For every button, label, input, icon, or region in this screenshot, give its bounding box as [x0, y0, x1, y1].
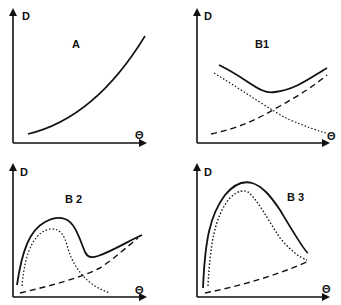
curve-dotted — [214, 73, 326, 133]
curve-solid — [17, 218, 142, 285]
panel-title: B 2 — [65, 193, 82, 205]
y-axis-label: D — [20, 166, 28, 178]
curve-dashed — [205, 261, 309, 293]
panel-title: B 3 — [287, 191, 304, 203]
y-axis-label: D — [204, 10, 212, 22]
panel-title: B1 — [255, 38, 269, 50]
panel-b2: D Θ B 2 — [13, 165, 145, 297]
panel-a: D Θ A — [13, 10, 145, 143]
y-axis-label: D — [204, 166, 212, 178]
curve-dotted — [22, 229, 110, 293]
x-axis-label: Θ — [135, 284, 144, 296]
x-axis-label: Θ — [327, 130, 336, 142]
curve-solid — [219, 65, 327, 92]
x-axis-label: Θ — [322, 283, 331, 295]
panel-title: A — [72, 38, 80, 50]
diagram-canvas: D Θ A D Θ B1 D Θ B 2 D Θ B 3 — [0, 0, 341, 305]
curve-dotted — [208, 191, 307, 286]
panel-b3: D Θ B 3 — [197, 165, 331, 297]
x-axis-label: Θ — [135, 129, 144, 141]
y-axis-label: D — [22, 10, 30, 22]
curve-solid — [28, 36, 145, 134]
curve-dashed — [211, 75, 327, 134]
panel-b1: D Θ B1 — [197, 10, 336, 143]
